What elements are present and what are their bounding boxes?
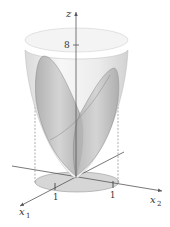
z-axis-label: z xyxy=(65,8,72,19)
x1-axis-label: x 1 xyxy=(19,206,30,220)
svg-text:2: 2 xyxy=(157,200,161,208)
x1-tick-label: 1 xyxy=(53,192,58,202)
svg-text:x: x xyxy=(150,194,156,205)
x2-tick-label: 1 xyxy=(110,190,115,200)
surface-diagram: z 8 1 1 x 1 x 2 xyxy=(0,0,170,227)
svg-text:x: x xyxy=(19,206,25,217)
svg-text:1: 1 xyxy=(26,212,30,220)
z-tick-label: 8 xyxy=(64,40,70,50)
paraboloid-rim xyxy=(25,28,128,52)
x2-axis-label: x 2 xyxy=(150,194,161,208)
